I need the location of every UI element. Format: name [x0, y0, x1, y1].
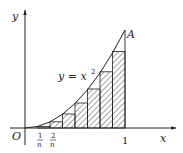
- rectangle-7: [100, 72, 113, 128]
- svg-text:n: n: [50, 141, 55, 149]
- origin-label: O: [12, 130, 21, 143]
- svg-text:2: 2: [51, 132, 55, 140]
- tick-label-one: 1: [122, 135, 128, 146]
- riemann-sum-diagram: y x O A y = x 2 1 1 n 2 n: [0, 0, 183, 153]
- curve-equation-exponent: 2: [91, 68, 95, 76]
- y-axis-label: y: [11, 10, 19, 23]
- tick-label-1-over-n: 1 n: [37, 132, 43, 149]
- diagram-canvas: y x O A y = x 2 1 1 n 2 n: [0, 0, 183, 153]
- svg-text:n: n: [37, 141, 42, 149]
- rectangle-4: [63, 114, 76, 128]
- svg-text:1: 1: [38, 132, 42, 140]
- point-a-label: A: [126, 28, 135, 41]
- rectangle-8: [113, 51, 126, 128]
- x-axis-label: x: [160, 132, 167, 145]
- rectangle-5: [75, 103, 88, 128]
- tick-label-2-over-n: 2 n: [50, 132, 56, 149]
- rectangle-3: [50, 122, 63, 128]
- rectangle-6: [88, 89, 101, 128]
- riemann-rectangles: [38, 51, 126, 128]
- curve-equation-label: y = x: [57, 70, 87, 83]
